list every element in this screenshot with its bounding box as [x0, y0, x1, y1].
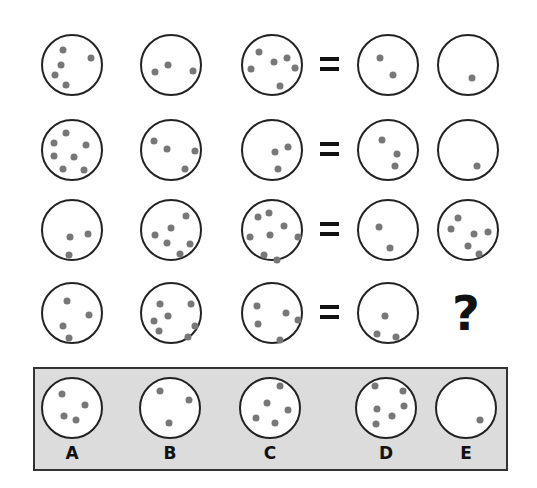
- dot: [372, 383, 379, 390]
- row-3-circle-3: [241, 199, 303, 261]
- dot: [455, 215, 462, 222]
- dot: [192, 323, 199, 330]
- dot: [274, 257, 281, 264]
- row-1-result-2: [437, 34, 499, 96]
- dot: [52, 72, 59, 79]
- dot: [389, 413, 396, 420]
- dot: [281, 223, 288, 230]
- option-a-circle[interactable]: [41, 377, 103, 439]
- dot: [51, 140, 58, 147]
- row-1-circle-1: [41, 34, 103, 96]
- dot: [400, 388, 407, 395]
- dot: [377, 55, 384, 62]
- option-e-circle[interactable]: [435, 377, 497, 439]
- option-d-circle[interactable]: [355, 377, 417, 439]
- row-4-circle-1: [41, 282, 103, 344]
- dot: [151, 318, 158, 325]
- dot: [83, 142, 90, 149]
- dot: [183, 213, 190, 220]
- row-2-circle-3: [241, 119, 303, 181]
- dot: [471, 231, 478, 238]
- dot: [465, 243, 472, 250]
- row-2-circle-2: [140, 119, 202, 181]
- dot: [393, 334, 400, 341]
- dot: [67, 234, 74, 241]
- dot: [277, 337, 284, 344]
- dot: [485, 229, 492, 236]
- dot: [51, 153, 58, 160]
- dot: [82, 402, 89, 409]
- dot: [152, 69, 159, 76]
- dot: [247, 234, 254, 241]
- dot: [285, 144, 292, 151]
- dot: [284, 55, 291, 62]
- option-c-label[interactable]: C: [255, 443, 285, 463]
- dot: [476, 251, 483, 258]
- dot: [81, 167, 88, 174]
- dot: [448, 226, 455, 233]
- dot: [275, 166, 282, 173]
- dot: [85, 231, 92, 238]
- dot: [66, 335, 73, 342]
- dot: [469, 75, 476, 82]
- dot: [152, 232, 159, 239]
- dot: [255, 321, 262, 328]
- dot: [248, 66, 255, 73]
- option-e-label[interactable]: E: [451, 443, 481, 463]
- dot: [60, 166, 67, 173]
- option-d-label[interactable]: D: [371, 443, 401, 463]
- dot: [387, 245, 394, 252]
- dot: [64, 298, 71, 305]
- row-2-circle-1: [41, 119, 103, 181]
- option-a-label[interactable]: A: [57, 443, 87, 463]
- dot: [374, 406, 381, 413]
- dot: [59, 391, 66, 398]
- dot: [295, 234, 302, 241]
- row-4-result-1: [357, 282, 419, 344]
- dot: [63, 130, 70, 137]
- dot: [477, 417, 484, 424]
- dot: [88, 55, 95, 62]
- option-c-circle[interactable]: [239, 377, 301, 439]
- dot: [156, 328, 163, 335]
- dot: [166, 420, 173, 427]
- option-b-circle[interactable]: [139, 377, 201, 439]
- equals-sign: [320, 222, 339, 236]
- dot: [254, 303, 261, 310]
- question-mark: ?: [452, 289, 480, 337]
- equals-sign: [320, 57, 339, 71]
- dot: [60, 47, 67, 54]
- dot: [376, 224, 383, 231]
- dot: [151, 138, 158, 145]
- dot: [164, 240, 171, 247]
- dot: [60, 323, 67, 330]
- dot: [283, 310, 290, 317]
- dot: [165, 313, 172, 320]
- dot: [267, 232, 274, 239]
- dot: [272, 420, 279, 427]
- dot: [63, 82, 70, 89]
- dot: [374, 331, 381, 338]
- dot: [255, 214, 262, 221]
- dot: [382, 313, 389, 320]
- dot: [277, 83, 284, 90]
- dot: [285, 407, 292, 414]
- dot: [157, 301, 164, 308]
- dot: [86, 312, 93, 319]
- dot: [192, 148, 199, 155]
- equals-sign: [320, 305, 339, 319]
- dot: [186, 397, 193, 404]
- dot: [73, 417, 80, 424]
- dot: [185, 334, 192, 341]
- dot: [373, 421, 380, 428]
- dot: [165, 62, 172, 69]
- option-b-label[interactable]: B: [155, 443, 185, 463]
- dot: [261, 252, 268, 259]
- dot: [379, 137, 386, 144]
- dot: [58, 62, 65, 69]
- row-2-result-1: [357, 119, 419, 181]
- dot: [277, 383, 284, 390]
- dot: [271, 59, 278, 66]
- equals-sign: [320, 142, 339, 156]
- dot: [401, 403, 408, 410]
